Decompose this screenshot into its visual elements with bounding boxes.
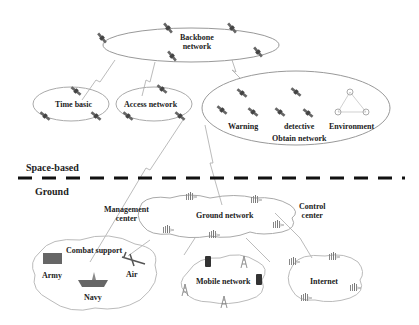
air-icon (122, 252, 145, 266)
mobile-label: Mobile network (196, 277, 250, 286)
control-label-line2: center (299, 211, 326, 220)
management-label: Management center (104, 205, 149, 223)
warning-label: Warning (228, 122, 258, 131)
management-label-line2: center (104, 214, 149, 223)
obtain-label: Obtain network (272, 134, 326, 143)
backbone-label: Backbone network (180, 33, 214, 51)
air-label: Air (126, 270, 138, 279)
navy-icon (78, 280, 108, 287)
navy-label: Navy (84, 293, 102, 302)
management-label-line1: Management (104, 205, 149, 214)
time-basic-label: Time basic (55, 100, 92, 109)
internet-label: Internet (310, 277, 338, 286)
environment-label: Environment (329, 122, 374, 131)
phone-icon (256, 274, 262, 285)
control-label-line1: Control (299, 202, 326, 211)
links (82, 60, 312, 262)
detective-label: detective (284, 122, 314, 131)
backbone-label-line2: network (180, 42, 214, 51)
phone-icon (205, 256, 211, 267)
control-label: Control center (299, 202, 326, 220)
army-icon (43, 253, 62, 264)
ground-network-label: Ground network (196, 211, 253, 220)
combat-label: Combat support (66, 246, 122, 255)
access-label: Access network (124, 100, 177, 109)
ground-label: Ground (35, 186, 69, 197)
army-label: Army (42, 271, 62, 280)
backbone-label-line1: Backbone (180, 33, 214, 42)
space-based-label: Space-based (26, 162, 79, 173)
